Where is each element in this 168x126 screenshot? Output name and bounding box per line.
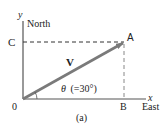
vector-diagram: y North C A V θ (=30°) 0 B x East (a) (0, 0, 168, 126)
angle-label: θ (=30°) (61, 83, 97, 95)
y-axis-label: y (17, 9, 23, 20)
origin-label: 0 (12, 101, 17, 112)
point-c-label: C (8, 36, 15, 48)
north-label: North (27, 18, 50, 29)
vector-v-label: V (66, 56, 74, 68)
point-b-label: B (120, 101, 127, 112)
east-label: East (142, 101, 159, 112)
angle-value: (=30°) (70, 83, 96, 95)
caption: (a) (76, 112, 87, 124)
angle-symbol: θ (61, 83, 66, 94)
angle-arc (35, 92, 37, 99)
point-a-label: A (127, 32, 134, 43)
